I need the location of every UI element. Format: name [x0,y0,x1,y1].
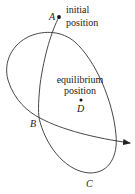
point-a-dot [57,15,61,19]
label-a: A [48,11,56,22]
label-c: C [86,178,93,189]
label-d: D [76,103,85,114]
trajectory-diagram: A initial position equilibrium position … [0,0,135,194]
label-b: B [30,118,36,129]
equilibrium-line1: equilibrium [57,74,104,85]
initial-position-line2: position [66,17,98,28]
initial-position-line1: initial [66,4,90,15]
point-d-dot [80,99,83,102]
equilibrium-line2: position [64,85,96,96]
